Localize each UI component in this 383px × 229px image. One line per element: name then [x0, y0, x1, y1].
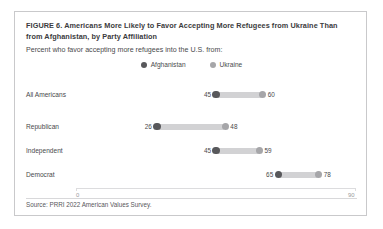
chart-row-all-americans: All Americans 45 60: [15, 88, 368, 102]
figure-subtitle: Percent who favor accepting more refugee…: [26, 45, 356, 55]
row-label: Republican: [26, 123, 59, 130]
chart-row-independent: Independent 45 59: [15, 144, 368, 158]
source-note: Source: PRRI 2022 American Values Survey…: [26, 201, 151, 208]
row-track: 45 60: [76, 88, 356, 102]
row-value-ukraine: 59: [260, 147, 272, 154]
legend-item-afghanistan[interactable]: Afghanistan: [141, 61, 186, 68]
legend-label-afghanistan: Afghanistan: [151, 61, 186, 68]
chart-row-democrat: Democrat 65 78: [15, 168, 368, 182]
row-label: All Americans: [26, 91, 66, 98]
chart-plot-area: All Americans 45 60 Republican 26 48 Ind…: [15, 78, 368, 183]
row-connector: [157, 124, 225, 131]
legend-dot-ukraine-icon: [210, 62, 216, 68]
row-connector: [278, 172, 318, 179]
source-divider: [26, 198, 357, 199]
chart-row-republican: Republican 26 48: [15, 120, 368, 134]
x-axis-tick-min: [76, 188, 77, 191]
figure-card: FIGURE 6. Americans More Likely to Favor…: [14, 11, 367, 216]
row-track: 65 78: [76, 168, 356, 182]
row-track: 45 59: [76, 144, 356, 158]
row-value-ukraine: 78: [319, 171, 331, 178]
figure-title: FIGURE 6. Americans More Likely to Favor…: [26, 20, 356, 42]
chart-legend: Afghanistan Ukraine: [15, 61, 368, 68]
row-value-ukraine: 60: [263, 91, 275, 98]
x-axis-tick-max: [355, 188, 356, 191]
row-label: Independent: [26, 147, 63, 154]
legend-label-ukraine: Ukraine: [220, 61, 243, 68]
row-label: Democrat: [26, 171, 55, 178]
legend-item-ukraine[interactable]: Ukraine: [210, 61, 243, 68]
row-connector: [216, 148, 260, 155]
legend-dot-afghanistan-icon: [141, 62, 147, 68]
row-dot-afghanistan[interactable]: [153, 123, 160, 130]
x-axis: 0 90: [76, 188, 356, 189]
row-value-ukraine: 48: [225, 123, 237, 130]
row-connector: [216, 92, 263, 99]
row-track: 26 48: [76, 120, 356, 134]
